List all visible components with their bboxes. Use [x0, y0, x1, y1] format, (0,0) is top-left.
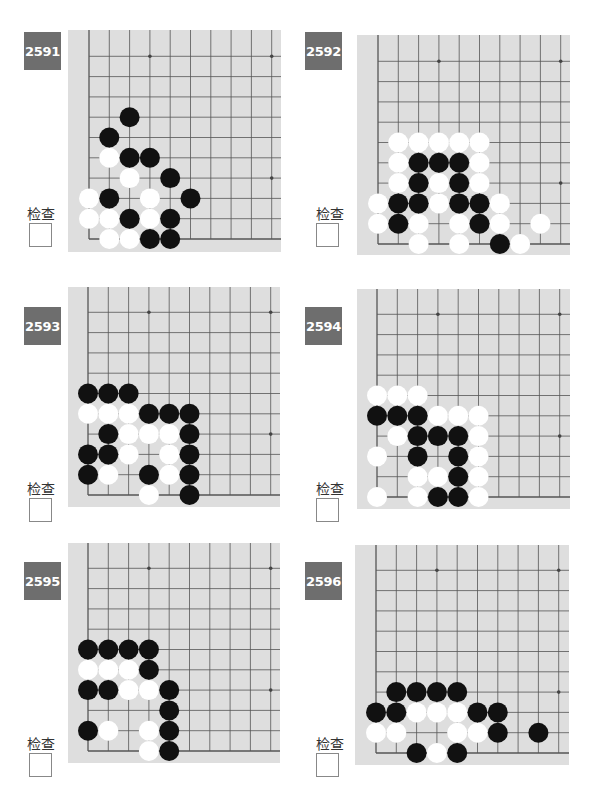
white-stone	[98, 465, 118, 485]
white-stone	[386, 723, 406, 743]
white-stone	[367, 446, 387, 466]
problem-number: 2593	[24, 307, 61, 345]
black-stone	[408, 406, 428, 426]
white-stone	[120, 229, 140, 249]
black-stone	[78, 680, 98, 700]
check-label: 检查	[27, 733, 55, 753]
black-stone	[449, 173, 469, 193]
white-stone	[139, 721, 159, 741]
white-stone	[469, 426, 489, 446]
black-stone	[427, 682, 447, 702]
white-stone	[367, 386, 387, 406]
black-stone	[490, 234, 510, 254]
check-label: 检查	[27, 478, 55, 498]
black-stone	[120, 209, 140, 229]
go-board	[355, 545, 569, 765]
black-stone	[120, 148, 140, 168]
white-stone	[429, 133, 449, 153]
white-stone	[469, 467, 489, 487]
white-stone	[139, 680, 159, 700]
go-problem-2592: 2592 检查	[295, 0, 585, 245]
white-stone	[470, 133, 490, 153]
black-stone	[387, 406, 407, 426]
white-stone	[140, 209, 160, 229]
black-stone	[409, 153, 429, 173]
white-stone	[490, 214, 510, 234]
black-stone	[447, 743, 467, 763]
white-stone	[387, 386, 407, 406]
check-checkbox[interactable]	[29, 223, 52, 247]
black-stone	[120, 107, 140, 127]
black-stone	[98, 680, 118, 700]
white-stone	[409, 234, 429, 254]
black-stone	[470, 193, 490, 213]
black-stone	[448, 487, 468, 507]
white-stone	[449, 214, 469, 234]
white-stone	[470, 173, 490, 193]
white-stone	[468, 723, 488, 743]
problem-number: 2594	[305, 307, 342, 345]
black-stone	[78, 721, 98, 741]
go-board	[357, 289, 570, 509]
check-checkbox[interactable]	[316, 223, 339, 247]
white-stone	[79, 209, 99, 229]
check-label: 检查	[316, 203, 344, 223]
white-stone	[99, 229, 119, 249]
check-label: 检查	[316, 478, 344, 498]
black-stone	[468, 702, 488, 722]
go-board	[68, 30, 281, 252]
black-stone	[407, 682, 427, 702]
white-stone	[490, 193, 510, 213]
white-stone	[407, 702, 427, 722]
white-stone	[447, 702, 467, 722]
check-checkbox[interactable]	[29, 753, 52, 777]
go-problem-2591: 2591 检查	[0, 0, 290, 245]
black-stone	[388, 193, 408, 213]
check-checkbox[interactable]	[316, 753, 339, 777]
go-board	[68, 543, 280, 763]
white-stone	[469, 406, 489, 426]
white-stone	[408, 487, 428, 507]
white-stone	[140, 188, 160, 208]
white-stone	[387, 426, 407, 446]
black-stone	[78, 384, 98, 404]
black-stone	[366, 702, 386, 722]
white-stone	[119, 660, 139, 680]
white-stone	[99, 209, 119, 229]
black-stone	[449, 153, 469, 173]
white-stone	[139, 424, 159, 444]
white-stone	[428, 467, 448, 487]
black-stone	[428, 487, 448, 507]
white-stone	[367, 487, 387, 507]
black-stone	[98, 444, 118, 464]
black-stone	[139, 660, 159, 680]
black-stone	[119, 384, 139, 404]
go-problem-2595: 2595 检查	[0, 530, 290, 775]
white-stone	[98, 660, 118, 680]
black-stone	[160, 229, 180, 249]
white-stone	[409, 214, 429, 234]
white-stone	[119, 424, 139, 444]
black-stone	[159, 700, 179, 720]
white-stone	[429, 193, 449, 213]
black-stone	[180, 404, 200, 424]
black-stone	[448, 467, 468, 487]
white-stone	[368, 193, 388, 213]
white-stone	[78, 404, 98, 424]
white-stone	[139, 741, 159, 761]
black-stone	[388, 214, 408, 234]
white-stone	[408, 467, 428, 487]
black-stone	[78, 465, 98, 485]
black-stone	[386, 682, 406, 702]
black-stone	[447, 682, 467, 702]
problem-number: 2592	[305, 32, 342, 70]
black-stone	[140, 148, 160, 168]
white-stone	[98, 404, 118, 424]
black-stone	[488, 723, 508, 743]
black-stone	[159, 404, 179, 424]
black-stone	[409, 193, 429, 213]
check-checkbox[interactable]	[29, 498, 52, 522]
white-stone	[159, 424, 179, 444]
check-checkbox[interactable]	[316, 498, 339, 522]
go-problem-2594: 2594 检查	[295, 275, 585, 520]
